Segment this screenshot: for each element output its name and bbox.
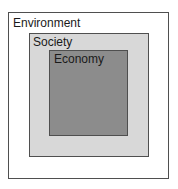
society-label: Society bbox=[33, 36, 72, 48]
economy-label: Economy bbox=[54, 53, 104, 65]
environment-label: Environment bbox=[13, 17, 80, 29]
